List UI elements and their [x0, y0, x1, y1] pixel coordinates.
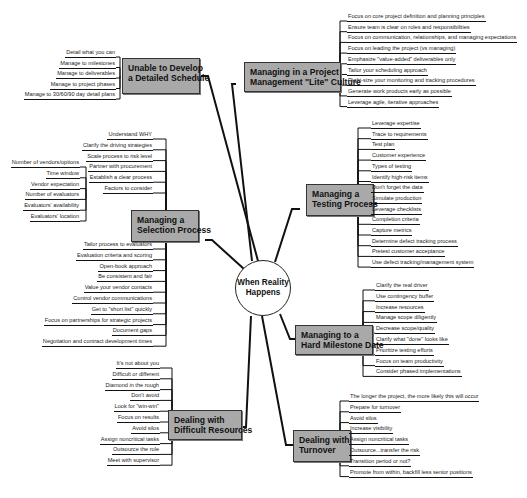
central-topic[interactable]: When Reality Happens: [235, 260, 291, 316]
subtopic-item[interactable]: Consider phased implementations: [375, 368, 462, 377]
subtopic-item[interactable]: Clarify the driving strategies: [82, 142, 153, 151]
subtopic-item[interactable]: Focus on team productivity: [375, 358, 444, 367]
subtopic-item[interactable]: Assign noncritical tasks: [349, 436, 409, 445]
subtopic-item[interactable]: Increase resources: [375, 304, 425, 313]
topic-title-line: Turnover: [299, 445, 345, 455]
subtopic-item[interactable]: Negotiation and contract development tim…: [42, 338, 153, 347]
subtopic-item[interactable]: Prepare for turnover: [349, 404, 401, 413]
subtopic-item[interactable]: Manage to 30/60/90 day detail plans: [24, 91, 116, 100]
subtopic-item[interactable]: Leverage agile, iterative approaches: [347, 99, 439, 108]
subtopic-item[interactable]: Leverage expertise: [371, 120, 421, 129]
subtopic-item[interactable]: Generate work products early as possible: [347, 88, 452, 97]
mind-map: Unable to Develop a Detailed Schedule Ma…: [0, 0, 527, 498]
topic-testing-process[interactable]: Managing a Testing Process: [306, 184, 374, 216]
subtopic-item[interactable]: Factors to consider: [103, 185, 153, 194]
subtopic-item[interactable]: Transition period or not?: [349, 458, 411, 467]
subtopic-item[interactable]: Focus on leading the project (vs managin…: [347, 45, 456, 54]
subtopic-item[interactable]: Evaluation criteria and scoring: [76, 252, 153, 261]
subtopic-item[interactable]: Number of evaluators: [25, 191, 80, 200]
subtopic-item[interactable]: Manage to deliverables: [56, 70, 116, 79]
topic-title-line: Dealing with: [299, 435, 345, 445]
subtopic-item[interactable]: Use defect tracking/management system: [371, 259, 474, 268]
subtopic-item[interactable]: Avoid silos: [131, 425, 160, 434]
central-topic-line: When Reality: [237, 278, 288, 288]
subtopic-item[interactable]: Trace to requirements: [371, 131, 428, 140]
subtopic-item[interactable]: Focus on core project definition and pla…: [347, 13, 486, 22]
subtopic-item[interactable]: Manage scope diligently: [375, 314, 437, 323]
subtopic-item[interactable]: Identify high-risk items: [371, 174, 429, 183]
subtopic-item[interactable]: Diamond in the rough: [105, 382, 161, 391]
subtopic-item[interactable]: Outsource the role: [112, 446, 160, 455]
topic-unable-to-develop-schedule[interactable]: Unable to Develop a Detailed Schedule: [122, 58, 200, 94]
topic-turnover[interactable]: Dealing with Turnover: [293, 430, 351, 462]
subtopic-item[interactable]: Capture metrics: [371, 227, 412, 236]
topic-title-line: Managing in a Project: [250, 67, 335, 77]
subtopic-item[interactable]: Test plan: [371, 141, 395, 150]
subtopic-item[interactable]: Clarify what "done" looks like: [375, 336, 449, 345]
subtopic-item[interactable]: Completion criteria: [371, 216, 420, 225]
topic-difficult-resources[interactable]: Dealing with Difficult Resources: [168, 410, 242, 440]
topic-title-line: Managing to a: [301, 330, 367, 340]
subtopic-item[interactable]: Open-book approach: [98, 263, 153, 272]
subtopic-item[interactable]: Focus on results: [117, 414, 160, 423]
subtopic-item[interactable]: Number of vendors/options: [11, 159, 80, 168]
subtopic-item[interactable]: Determine defect tracking process: [371, 238, 458, 247]
topic-title-line: Management "Lite" Culture: [250, 77, 335, 87]
subtopic-item[interactable]: Emphasize "value-added" deliverables onl…: [347, 56, 456, 65]
subtopic-item[interactable]: Evaluators' location: [30, 213, 80, 222]
subtopic-item[interactable]: Manage to project phases: [50, 81, 116, 90]
topic-title-line: Managing a: [312, 189, 368, 199]
topic-title-line: Testing Process: [312, 199, 368, 209]
subtopic-item[interactable]: Leverage checklists: [371, 206, 422, 215]
subtopic-item[interactable]: Increase visibility: [349, 425, 393, 434]
subtopic-item[interactable]: Be consistent and fair: [97, 273, 153, 282]
subtopic-item[interactable]: Ensure team is clear on roles and respon…: [347, 24, 471, 33]
subtopic-item[interactable]: Don't avoid: [130, 392, 160, 401]
subtopic-item[interactable]: Outsource...transfer the risk: [349, 447, 420, 456]
topic-project-management-lite[interactable]: Managing in a Project Management "Lite" …: [244, 62, 341, 92]
subtopic-item[interactable]: Control vendor communications: [72, 295, 153, 304]
subtopic-item[interactable]: Understand WHY: [107, 131, 153, 140]
subtopic-item[interactable]: Avoid silos: [349, 415, 378, 424]
subtopic-item[interactable]: Prioritize testing efforts: [375, 347, 434, 356]
subtopic-item[interactable]: Use contingency buffer: [375, 293, 434, 302]
subtopic-item[interactable]: Assign noncritical tasks: [100, 436, 160, 445]
subtopic-item[interactable]: Simulate production: [371, 195, 422, 204]
topic-title-line: Dealing with: [174, 415, 236, 425]
subtopic-item[interactable]: Time window: [46, 170, 80, 179]
subtopic-item[interactable]: Don't forget the data: [371, 184, 424, 193]
subtopic-item[interactable]: Get to "short list" quickly: [91, 306, 153, 315]
topic-selection-process[interactable]: Managing a Selection Process: [131, 210, 199, 242]
subtopic-item[interactable]: Partner with procurement: [88, 163, 153, 172]
topic-title-line: Selection Process: [137, 225, 193, 235]
subtopic-item[interactable]: Evaluators' availability: [23, 202, 80, 211]
subtopic-item[interactable]: Scale process to risk level: [86, 153, 153, 162]
subtopic-item[interactable]: Document gaps: [112, 327, 153, 336]
subtopic-item[interactable]: It's not about you: [116, 360, 160, 369]
subtopic-item[interactable]: The longer the project, the more likely …: [349, 393, 479, 402]
subtopic-item[interactable]: Meet with supervisor: [107, 457, 160, 466]
subtopic-item[interactable]: Customer experience: [371, 152, 426, 161]
subtopic-item[interactable]: Clarify the real driver: [375, 282, 429, 291]
subtopic-item[interactable]: Focus on communication, relationships, a…: [347, 34, 517, 43]
topic-title-line: Managing a: [137, 215, 193, 225]
subtopic-item[interactable]: Focus on partnerships for strategic proj…: [44, 317, 153, 326]
topic-title-line: Unable to Develop: [128, 63, 194, 73]
subtopic-item[interactable]: Right-size your monitoring and tracking …: [347, 77, 476, 86]
topic-title-line: a Detailed Schedule: [128, 73, 194, 83]
subtopic-item[interactable]: Pretest customer acceptance: [371, 248, 445, 257]
subtopic-item[interactable]: Detail what you can: [65, 49, 116, 58]
topic-hard-milestone-date[interactable]: Managing to a Hard Milestone Date: [295, 325, 373, 355]
subtopic-item[interactable]: Manage to milestones: [59, 60, 116, 69]
subtopic-item[interactable]: Types of testing: [371, 163, 412, 172]
subtopic-item[interactable]: Look for "win-win": [114, 403, 160, 412]
topic-title-line: Hard Milestone Date: [301, 340, 367, 350]
subtopic-item[interactable]: Promote from within, backfill less senio…: [349, 469, 473, 478]
subtopic-item[interactable]: Vendor expectation: [30, 181, 80, 190]
subtopic-item[interactable]: Tailor your scheduling approach: [347, 67, 428, 76]
subtopic-item[interactable]: Tailor process to evaluators: [83, 241, 153, 250]
subtopic-item[interactable]: Decrease scope/quality: [375, 325, 435, 334]
subtopic-item[interactable]: Difficult or different: [112, 371, 160, 380]
subtopic-item[interactable]: Value your vendor contacts: [84, 284, 153, 293]
subtopic-item[interactable]: Establish a clear process: [89, 174, 153, 183]
